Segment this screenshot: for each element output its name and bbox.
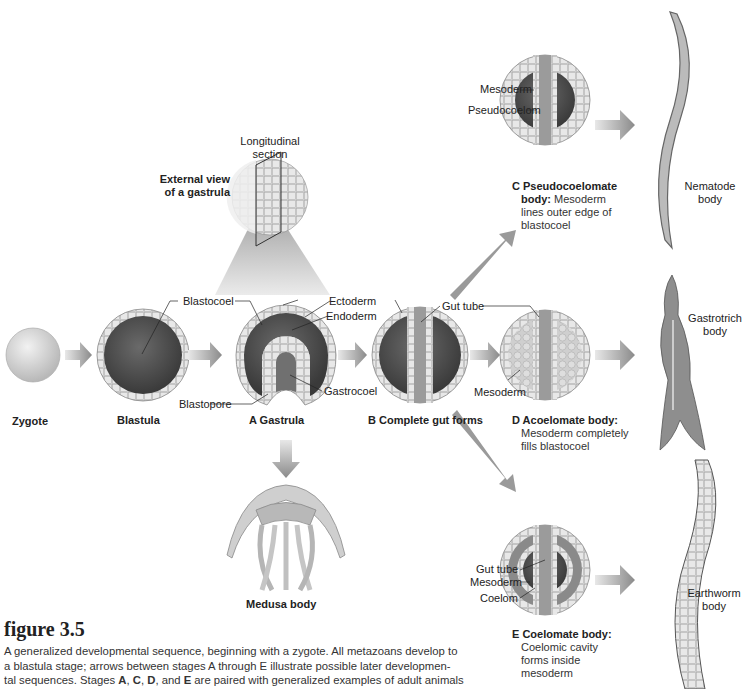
coelomate-description: E Coelomate body: Coelomic cavity forms …: [512, 628, 612, 680]
mesoderm-d-label: Mesoderm: [474, 386, 526, 399]
stage-title: E Coelomate body:: [512, 628, 612, 640]
stage-title: D Acoelomate body:: [512, 414, 618, 426]
medusa-illustration: [227, 485, 345, 590]
gut-tube-e-label: Gut tube: [476, 563, 518, 576]
developmental-sequence-diagram: [0, 0, 744, 689]
pseudocoelom-label: Pseudocoelom: [468, 104, 541, 117]
desc-line: Mesoderm: [551, 193, 606, 205]
zygote-stage-label: Zygote: [12, 415, 48, 428]
desc-line: Coelomic cavity: [512, 641, 612, 654]
arrow-icon: [65, 342, 92, 368]
external-view-label: External view of a gastrula: [140, 173, 230, 199]
earthworm-label: Earthworm body: [684, 587, 744, 613]
blastula-illustration: [97, 309, 189, 401]
external-gastrula-illustration: [227, 152, 308, 246]
nematode-illustration: [659, 12, 690, 248]
complete-gut-illustration: [372, 307, 468, 403]
arrow-icon: [188, 342, 222, 368]
desc-line: lines outer edge of: [512, 206, 617, 219]
arrow-icon: [450, 230, 516, 300]
mesoderm-e-label: Mesoderm: [470, 576, 522, 589]
coelom-label: Coelom: [480, 592, 518, 605]
gastrula-stage-label: A Gastrula: [249, 414, 304, 427]
endoderm-label: Endoderm: [326, 310, 377, 323]
stage-title: C Pseudocoelomate: [512, 180, 617, 192]
label-line: External view: [140, 173, 230, 186]
gastrotrich-label: Gastrotrich body: [686, 312, 744, 338]
desc-line: Mesoderm completely: [512, 427, 629, 440]
blastopore-label: Blastopore: [179, 398, 232, 411]
label-line: Longitudinal: [240, 135, 300, 148]
gastrula-illustration: [236, 305, 336, 405]
desc-line: mesoderm: [512, 667, 612, 680]
caption-line: a blastula stage; arrows between stages …: [4, 659, 504, 674]
arrow-icon: [272, 440, 300, 478]
leader-lines: [142, 90, 545, 598]
stage-title-cont: body:: [521, 193, 551, 205]
ectoderm-label: Ectoderm: [329, 295, 376, 308]
desc-line: forms inside: [512, 654, 612, 667]
arrow-icon: [595, 110, 635, 140]
caption-line: A generalized developmental sequence, be…: [4, 644, 504, 659]
blastula-stage-label: Blastula: [117, 414, 160, 427]
label-line: Nematode: [680, 180, 740, 193]
label-line: body: [684, 600, 744, 613]
section-projection-cone: [215, 225, 330, 295]
label-line: section: [240, 148, 300, 161]
caption-line: tal sequences. Stages A, C, D, and E are…: [4, 673, 504, 688]
gut-tube-b-label: Gut tube: [442, 300, 484, 313]
blastocoel-label: Blastocoel: [183, 295, 234, 308]
label-line: body: [686, 325, 744, 338]
longitudinal-section-label: Longitudinal section: [240, 135, 300, 161]
pseudocoelomate-illustration: [500, 55, 590, 145]
arrow-icon: [338, 342, 367, 368]
nematode-label: Nematode body: [680, 180, 740, 206]
arrow-icon: [595, 340, 635, 370]
arrow-icon: [470, 342, 500, 368]
desc-line: fills blastocoel: [512, 440, 629, 453]
pseudocoelomate-description: C Pseudocoelomate body: Mesoderm lines o…: [512, 180, 617, 232]
figure-number: figure 3.5: [4, 618, 85, 641]
medusa-label: Medusa body: [246, 598, 316, 611]
acoelomate-description: D Acoelomate body: Mesoderm completely f…: [512, 414, 629, 453]
complete-gut-stage-label: B Complete gut forms: [368, 414, 483, 427]
arrow-icon: [595, 565, 635, 595]
desc-line: blastocoel: [512, 219, 617, 232]
label-line: Gastrotrich: [686, 312, 744, 325]
label-line: of a gastrula: [140, 186, 230, 199]
earthworm-illustration: [675, 460, 716, 689]
figure-caption: A generalized developmental sequence, be…: [4, 644, 504, 688]
label-line: body: [680, 193, 740, 206]
zygote-illustration: [6, 328, 60, 382]
gastrotrich-illustration: [660, 275, 705, 450]
label-line: Earthworm: [684, 587, 744, 600]
mesoderm-c-label: Mesoderm: [480, 83, 532, 96]
gastrocoel-label: Gastrocoel: [324, 385, 377, 398]
